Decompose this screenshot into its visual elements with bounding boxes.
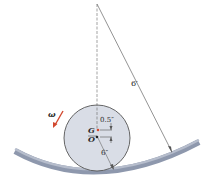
G-point [97,129,100,132]
O-label: O [88,134,95,144]
omega-arrow-icon [55,111,63,125]
omega-label: ω [48,109,56,119]
track-radius-label: 6′ [131,79,138,88]
diagram-canvas: ω G O 0.5″ 6″ 6′ [0,0,210,185]
O-point [96,136,99,139]
offset-label: 0.5″ [100,116,114,124]
wheel-radius-label: 6″ [101,149,108,157]
